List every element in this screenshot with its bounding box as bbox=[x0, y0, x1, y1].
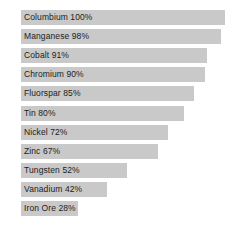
bar-row: Manganese 98% bbox=[21, 29, 89, 44]
horizontal-bar-chart: Columbium 100%Manganese 98%Cobalt 91%Chr… bbox=[0, 0, 233, 232]
bar-label: Vanadium 42% bbox=[21, 182, 82, 197]
bar-row: Iron Ore 28% bbox=[21, 201, 76, 216]
bar-label: Fluorspar 85% bbox=[21, 86, 81, 101]
bar-row: Tin 80% bbox=[21, 106, 56, 121]
bar-row: Zinc 67% bbox=[21, 144, 60, 159]
bar-label: Zinc 67% bbox=[21, 144, 60, 159]
bar-label: Tungsten 52% bbox=[21, 163, 80, 178]
bar-label: Nickel 72% bbox=[21, 125, 68, 140]
bar-label: Tin 80% bbox=[21, 106, 56, 121]
bar-row: Tungsten 52% bbox=[21, 163, 80, 178]
bar-row: Cobalt 91% bbox=[21, 48, 69, 63]
bar-label: Iron Ore 28% bbox=[21, 201, 76, 216]
bar-row: Columbium 100% bbox=[21, 10, 93, 25]
bar-row: Nickel 72% bbox=[21, 125, 68, 140]
bar-label: Manganese 98% bbox=[21, 29, 89, 44]
bar-label: Cobalt 91% bbox=[21, 48, 69, 63]
bar-label: Columbium 100% bbox=[21, 10, 93, 25]
bar-row: Fluorspar 85% bbox=[21, 86, 81, 101]
bar-label: Chromium 90% bbox=[21, 67, 84, 82]
bar-row: Chromium 90% bbox=[21, 67, 84, 82]
bar-row: Vanadium 42% bbox=[21, 182, 82, 197]
